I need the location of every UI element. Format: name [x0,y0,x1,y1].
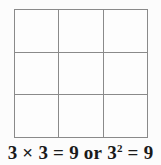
grid-cell-r2c1 [15,53,59,96]
caption-product-second: 9 [144,142,154,163]
grid-cell-r3c3 [104,95,148,138]
caption-factor-b: 3 [38,142,48,163]
equals-sign-first: = [48,142,69,163]
caption-exponent: 2 [117,142,123,154]
grid-cell-r3c1 [15,95,59,138]
caption-factor-a: 3 [8,142,18,163]
equals-sign-second: = [123,142,144,163]
grid-figure: 3 × 3 = 9 or 32 = 9 [0,0,161,165]
grid-cell-r1c1 [15,10,59,53]
grid-cell-r1c3 [104,10,148,53]
caption-product-first: 9 [69,142,79,163]
grid-cell-r3c2 [59,95,103,138]
figure-caption: 3 × 3 = 9 or 32 = 9 [0,140,161,165]
caption-conjunction: or [79,142,107,163]
grid-cell-r2c3 [104,53,148,96]
three-by-three-grid [14,9,148,138]
caption-base: 3 [107,142,117,163]
multiplication-sign: × [17,142,38,163]
grid-cell-r2c2 [59,53,103,96]
grid-cell-r1c2 [59,10,103,53]
caption-equation: 3 × 3 = 9 or 32 = 9 [8,143,154,162]
